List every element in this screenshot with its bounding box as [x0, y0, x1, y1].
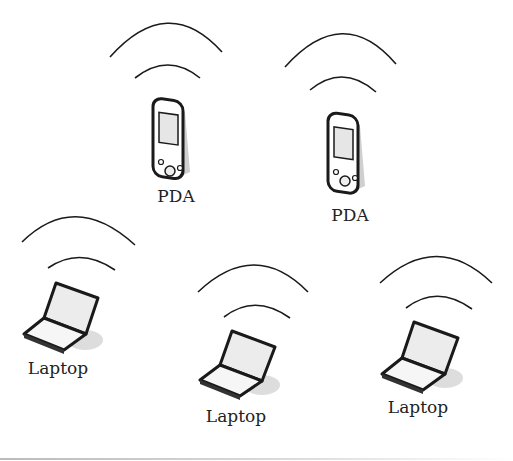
pda-label: PDA — [331, 205, 368, 225]
bottom-divider — [0, 458, 513, 460]
laptop-label: Laptop — [388, 397, 448, 417]
pda-label: PDA — [157, 186, 194, 206]
laptop-label: Laptop — [206, 406, 266, 426]
laptop-label: Laptop — [28, 358, 88, 378]
laptop-icon — [0, 0, 1, 1]
